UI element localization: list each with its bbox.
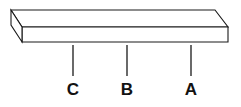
callout-a: A [185, 45, 197, 99]
figure-container: C B A [0, 0, 241, 107]
callout-b: B [121, 45, 133, 99]
top-face [11, 10, 228, 27]
callout-label-a: A [185, 80, 197, 99]
callout-c: C [67, 45, 79, 99]
front-face [22, 27, 228, 42]
callout-label-b: B [121, 80, 133, 99]
rectangular-bar [11, 10, 228, 42]
bar-diagram-svg: C B A [0, 0, 241, 107]
callout-label-c: C [67, 80, 79, 99]
